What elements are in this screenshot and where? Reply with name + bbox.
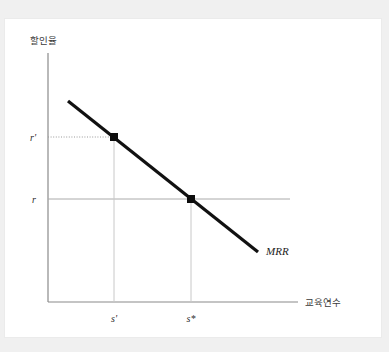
point-r-prime-s-prime bbox=[110, 133, 118, 141]
mrr-curve-label: MRR bbox=[265, 245, 289, 257]
mrr-curve bbox=[68, 101, 258, 252]
mrr-chart: 할인율 교육연수 r' r s' s* MRR bbox=[0, 0, 389, 352]
y-tick-r-label: r bbox=[32, 194, 36, 205]
figure-root: 할인율 교육연수 r' r s' s* MRR bbox=[0, 0, 389, 352]
x-axis-label: 교육연수 bbox=[305, 297, 341, 308]
point-r-s-star bbox=[187, 195, 195, 203]
y-tick-r-prime-label: r' bbox=[30, 132, 37, 143]
x-tick-s-prime-label: s' bbox=[111, 313, 118, 324]
x-tick-s-star-label: s* bbox=[187, 313, 196, 324]
y-axis-label: 할인율 bbox=[30, 35, 57, 46]
